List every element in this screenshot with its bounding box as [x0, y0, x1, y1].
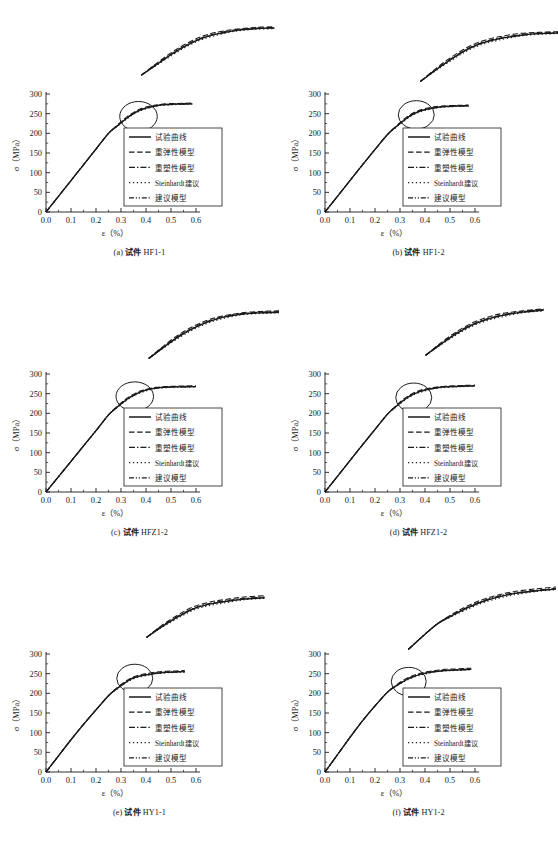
caption-prefix: 试件: [125, 248, 143, 257]
x-tick-label: 0.3: [395, 216, 405, 225]
inset-series-line: [426, 309, 544, 355]
inset-series-line: [408, 588, 556, 649]
knee-annotation-circle: [120, 101, 158, 131]
caption-prefix: 试件: [404, 248, 422, 257]
x-tick-label: 0.4: [420, 776, 431, 785]
inset-series-line: [147, 596, 265, 638]
x-tick-label: 0.1: [66, 216, 76, 225]
inset-series-line: [420, 32, 558, 82]
plot-area: 0.00.10.20.30.40.50.6050100150200250300ε…: [0, 562, 279, 820]
y-tick-label: 300: [29, 650, 42, 659]
y-tick-label: 0: [317, 488, 321, 497]
chart-panel-hy1-2-f: 0.00.10.20.30.40.50.6050100150200250300ε…: [279, 562, 558, 842]
legend-label: Steinhardt建议: [434, 739, 478, 748]
chart-panel-hy1-1-e: 0.00.10.20.30.40.50.6050100150200250300ε…: [0, 562, 279, 842]
knee-magnified-inset: [426, 309, 544, 355]
x-axis-label: ε（%）: [381, 229, 408, 238]
x-tick-label: 0.2: [370, 496, 380, 505]
plot-area: 0.00.10.20.30.40.50.6050100150200250300ε…: [0, 2, 279, 260]
plot-area: 0.00.10.20.30.40.50.6050100150200250300ε…: [279, 282, 558, 540]
inset-series-line: [141, 28, 274, 75]
caption-specimen: HFZ1-2: [141, 528, 168, 537]
plot-area: 0.00.10.20.30.40.50.6050100150200250300ε…: [279, 2, 558, 260]
y-tick-label: 50: [34, 468, 42, 477]
chart-panel-hf1-1-a: 0.00.10.20.30.40.50.6050100150200250300ε…: [0, 2, 279, 283]
inset-series-line: [408, 587, 556, 649]
x-tick-label: 0.1: [345, 216, 355, 225]
y-tick-label: 300: [308, 90, 321, 99]
y-tick-label: 0: [317, 208, 321, 217]
legend-label: 建议模型: [155, 473, 187, 483]
x-tick-label: 0.3: [395, 496, 405, 505]
legend-label: 建议模型: [434, 193, 466, 203]
y-tick-label: 150: [308, 149, 321, 158]
y-tick-label: 150: [29, 429, 42, 438]
panel-caption: (a) 试件 HF1-1: [0, 245, 279, 257]
y-tick-label: 100: [308, 449, 321, 458]
y-tick-label: 50: [313, 748, 321, 757]
y-axis-label: σ（MPa）: [12, 415, 21, 451]
y-tick-label: 0: [38, 208, 42, 217]
x-tick-label: 0.3: [116, 216, 126, 225]
x-tick-label: 0.5: [166, 216, 176, 225]
x-axis-label: ε（%）: [102, 509, 129, 518]
x-tick-label: 0.5: [445, 496, 455, 505]
legend: 试验曲线重弹性模型重塑性模型Steinhardt建议建议模型: [124, 128, 222, 206]
inset-series-line: [420, 32, 558, 81]
legend: 试验曲线重弹性模型重塑性模型Steinhardt建议建议模型: [403, 688, 501, 766]
x-axis-label: ε（%）: [381, 509, 408, 518]
y-tick-label: 300: [308, 650, 321, 659]
y-tick-label: 0: [317, 768, 321, 777]
knee-annotation-circle: [398, 101, 434, 129]
x-tick-label: 0.4: [141, 216, 152, 225]
y-tick-label: 300: [308, 370, 321, 379]
legend-label: 试验曲线: [434, 692, 466, 702]
legend-label: Steinhardt建议: [155, 459, 199, 468]
panel-caption: (f) 试件 HY1-2: [279, 805, 558, 817]
inset-series-line: [408, 589, 556, 649]
y-tick-label: 100: [29, 729, 42, 738]
caption-specimen: HY1-1: [143, 808, 166, 817]
caption-specimen: HF1-1: [144, 248, 166, 257]
legend-label: 试验曲线: [155, 412, 187, 422]
inset-series-line: [426, 311, 544, 355]
y-tick-label: 200: [308, 409, 321, 418]
inset-series-line: [141, 28, 274, 75]
panel-caption: (e) 试件 HY1-1: [0, 805, 279, 817]
x-tick-label: 0.0: [320, 496, 330, 505]
y-tick-label: 50: [34, 188, 42, 197]
x-tick-label: 0.0: [41, 496, 51, 505]
inset-series-line: [426, 310, 544, 356]
legend-label: 重塑性模型: [155, 163, 195, 173]
x-axis-label: ε（%）: [102, 789, 129, 798]
y-tick-label: 200: [29, 689, 42, 698]
x-tick-label: 0.5: [445, 776, 455, 785]
x-tick-label: 0.2: [91, 776, 101, 785]
caption-specimen: HFZ1-2: [420, 528, 447, 537]
x-tick-label: 0.5: [166, 496, 176, 505]
legend-label: 试验曲线: [155, 132, 187, 142]
figure-stress-strain-grid: 0.00.10.20.30.40.50.6050100150200250300ε…: [0, 0, 558, 842]
y-axis-label: σ（MPa）: [12, 695, 21, 731]
y-tick-label: 250: [308, 390, 321, 399]
x-tick-label: 0.3: [116, 776, 126, 785]
x-tick-label: 0.4: [141, 776, 152, 785]
knee-magnified-inset: [141, 27, 274, 75]
x-tick-label: 0.2: [91, 216, 101, 225]
knee-magnified-inset: [149, 311, 279, 359]
legend-label: 重塑性模型: [434, 443, 474, 453]
caption-prefix: 试件: [402, 528, 420, 537]
caption-specimen: HF1-2: [423, 248, 445, 257]
legend-label: 建议模型: [155, 753, 187, 763]
x-tick-label: 0.0: [41, 216, 51, 225]
legend: 试验曲线重弹性模型重塑性模型Steinhardt建议建议模型: [403, 408, 501, 486]
legend-label: 重弹性模型: [434, 707, 474, 717]
plot-area: 0.00.10.20.30.40.50.6050100150200250300ε…: [279, 562, 558, 820]
y-axis-label: σ（MPa）: [291, 135, 300, 171]
legend-label: 重弹性模型: [155, 707, 195, 717]
plot-area: 0.00.10.20.30.40.50.6050100150200250300ε…: [0, 282, 279, 540]
x-tick-label: 0.6: [470, 496, 480, 505]
x-tick-label: 0.6: [470, 216, 480, 225]
y-tick-label: 50: [313, 188, 321, 197]
caption-prefix: 试件: [124, 808, 142, 817]
